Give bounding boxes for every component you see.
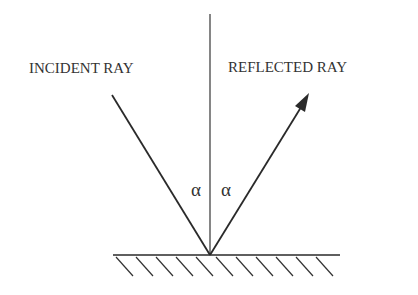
incident-ray-label: INCIDENT RAY — [29, 60, 134, 77]
reflected-ray-label: REFLECTED RAY — [228, 59, 347, 76]
reflection-angle-label: α — [221, 179, 231, 201]
incidence-angle-label: α — [191, 179, 201, 201]
diagram-drawing — [0, 0, 418, 295]
mirror-hatching — [116, 257, 333, 276]
arrowhead-icon — [295, 93, 309, 112]
incident-ray — [112, 95, 210, 255]
reflection-diagram: INCIDENT RAY REFLECTED RAY α α — [0, 0, 418, 295]
